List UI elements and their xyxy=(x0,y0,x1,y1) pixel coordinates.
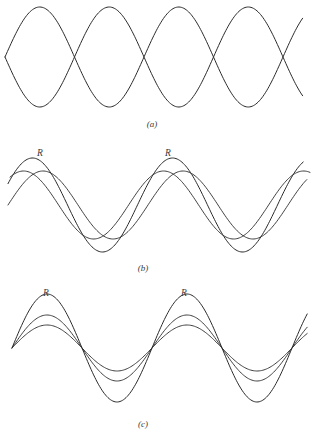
panel-a-caption: (a) xyxy=(147,119,158,129)
panel-b-resultant-label-2: R xyxy=(164,148,171,158)
panel-b: R R (b) xyxy=(8,148,310,273)
panel-a: (a) xyxy=(5,7,303,129)
panel-b-component-1 xyxy=(8,171,307,239)
panel-c-resultant-label-2: R xyxy=(180,288,187,298)
panel-c-resultant-wave xyxy=(12,294,307,402)
panel-c-component-small xyxy=(12,325,307,371)
panel-a-wave-1 xyxy=(5,7,303,107)
panel-c-caption: (c) xyxy=(138,419,148,429)
panel-c-resultant-label-1: R xyxy=(42,288,49,298)
panel-b-caption: (b) xyxy=(138,263,149,273)
panel-b-component-2 xyxy=(10,171,310,239)
panel-c-component-mid xyxy=(12,315,307,381)
panel-b-resultant-label-1: R xyxy=(36,148,43,158)
panel-a-wave-2 xyxy=(5,7,303,107)
wave-interference-figure: (a) R R (b) R R (c) xyxy=(0,0,317,435)
panel-c: R R (c) xyxy=(12,288,307,429)
